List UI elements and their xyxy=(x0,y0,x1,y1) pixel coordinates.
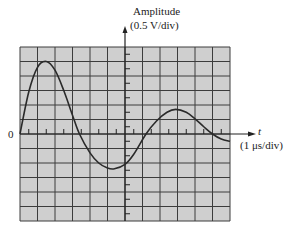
y-axis-label: Amplitude xyxy=(133,5,180,17)
x-axis-scale-label: (1 μs/div) xyxy=(240,139,283,151)
oscilloscope-chart xyxy=(0,0,296,230)
origin-label: 0 xyxy=(8,128,14,140)
y-axis-scale-label: (0.5 V/div) xyxy=(130,19,179,31)
time-axis-arrow-icon xyxy=(248,132,256,137)
amplitude-axis-arrow-icon xyxy=(123,26,128,33)
x-axis-label: t xyxy=(258,125,261,137)
